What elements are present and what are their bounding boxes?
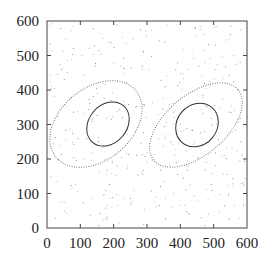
- x-tick-label: 600: [236, 235, 259, 251]
- left-outer-contour: [33, 63, 159, 185]
- x-tick-label: 0: [43, 235, 51, 251]
- y-tick-label: 0: [32, 220, 40, 236]
- y-axis: 0100200300400500600: [17, 13, 248, 236]
- y-tick-label: 600: [17, 13, 40, 29]
- y-tick-label: 400: [17, 82, 40, 98]
- x-axis: 0100200300400500600: [43, 21, 258, 251]
- right-outer-contour: [135, 67, 258, 184]
- y-tick-label: 500: [17, 48, 40, 64]
- x-tick-label: 200: [102, 235, 125, 251]
- scatter-points: [49, 23, 245, 226]
- x-tick-label: 300: [136, 235, 159, 251]
- plot-frame: [47, 21, 247, 228]
- right-inner-contour: [167, 95, 227, 156]
- x-tick-label: 500: [202, 235, 225, 251]
- y-tick-label: 100: [17, 186, 40, 202]
- x-tick-label: 100: [69, 235, 92, 251]
- y-tick-label: 200: [17, 151, 40, 167]
- y-tick-label: 300: [17, 117, 40, 133]
- left-inner-contour: [78, 93, 138, 154]
- scatter-chart: 0100200300400500600 0100200300400500600: [0, 0, 271, 263]
- x-tick-label: 400: [169, 235, 192, 251]
